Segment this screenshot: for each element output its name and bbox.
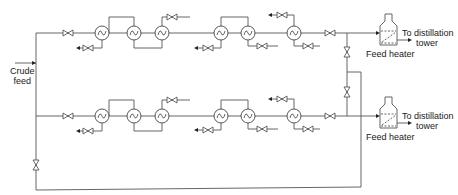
- upper-valve-4-icon: [277, 12, 287, 18]
- to-tower-top-label: To distillation tower: [402, 28, 454, 48]
- heat-exchanger-icon: [241, 26, 255, 40]
- to-tower-bottom-label: To distillation tower: [402, 111, 454, 131]
- to-tower-top-line1: To distillation: [402, 28, 454, 38]
- riser-valve-lower-icon: [344, 87, 350, 97]
- bypass-valve-icon: [33, 160, 39, 170]
- lower-train: [36, 96, 380, 134]
- upper-drain-valve-icon: [83, 45, 93, 51]
- process-flow-diagram: Crude feed To distillation tower Feed he…: [0, 0, 458, 195]
- upper-inlet-valve-icon: [63, 30, 73, 36]
- lower-valve-3-icon: [257, 126, 267, 132]
- lower-vent-valve-icon: [167, 97, 177, 103]
- lower-valve-5-icon: [303, 126, 313, 132]
- heat-exchanger-icon: [287, 26, 301, 40]
- feed-heater-bottom-label: Feed heater: [366, 132, 415, 142]
- crossover-riser: [344, 33, 350, 116]
- heat-exchanger-icon: [127, 109, 141, 123]
- heat-exchanger-icon: [287, 109, 301, 123]
- to-tower-top-line2: tower: [402, 38, 454, 48]
- upper-drain-valve-2-icon: [203, 45, 213, 51]
- crude-label-line1: Crude: [10, 66, 35, 76]
- heat-exchanger-icon: [155, 109, 169, 123]
- lower-drain-valve-2-icon: [203, 127, 213, 133]
- heat-exchanger-icon: [95, 26, 109, 40]
- crude-header-line: [15, 33, 361, 190]
- to-tower-bottom-line2: tower: [402, 121, 454, 131]
- to-tower-bottom-line1: To distillation: [402, 111, 454, 121]
- heat-exchanger-icon: [95, 109, 109, 123]
- upper-outlet-valve-icon: [325, 30, 335, 36]
- upper-valve-5-icon: [303, 43, 313, 49]
- upper-vent-valve-icon: [167, 14, 177, 20]
- heat-exchanger-icon: [214, 109, 228, 123]
- heat-exchanger-icon: [214, 26, 228, 40]
- lower-valve-4-icon: [277, 96, 287, 102]
- heat-exchanger-icon: [241, 109, 255, 123]
- crude-feed-label: Crude feed: [10, 66, 35, 86]
- lower-outlet-valve-icon: [325, 113, 335, 119]
- upper-train: [36, 12, 380, 51]
- heat-exchanger-icon: [127, 26, 141, 40]
- lower-drain-valve-icon: [83, 128, 93, 134]
- feed-heater-top-label: Feed heater: [366, 49, 415, 59]
- heat-exchanger-icon: [155, 26, 169, 40]
- upper-valve-3-icon: [257, 43, 267, 49]
- crude-label-line2: feed: [10, 76, 35, 86]
- riser-valve-upper-icon: [344, 47, 350, 57]
- lower-inlet-valve-icon: [63, 113, 73, 119]
